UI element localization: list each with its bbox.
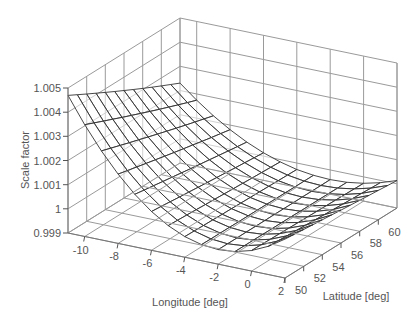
x-tick-label: 2 xyxy=(278,285,284,297)
back-wall-gridline xyxy=(180,18,397,63)
z-tick-label: 1.004 xyxy=(33,106,61,118)
x-tick-label: -8 xyxy=(109,250,119,262)
z-tick-label: 1 xyxy=(55,203,61,215)
y-axis-title: Latitude [deg] xyxy=(323,290,390,302)
z-tick-label: 0.999 xyxy=(33,227,61,239)
x-tick xyxy=(151,250,152,255)
x-tick xyxy=(84,237,85,242)
z-tick-label: 1.002 xyxy=(33,155,61,167)
x-tick-label: -4 xyxy=(176,264,186,276)
y-tick-label: 52 xyxy=(314,272,326,284)
x-tick-label: -2 xyxy=(209,271,219,283)
back-wall-gridline xyxy=(180,42,397,87)
x-tick xyxy=(217,264,218,269)
y-tick-label: 50 xyxy=(295,284,307,296)
x-tick-label: 0 xyxy=(245,278,251,290)
z-tick-label: 1.003 xyxy=(33,130,61,142)
y-tick-label: 56 xyxy=(351,249,363,261)
y-tick-label: 58 xyxy=(370,237,382,249)
z-axis-title: Scale factor xyxy=(19,131,31,189)
surface-plot: 0.99911.0011.0021.0031.0041.005-10-8-6-4… xyxy=(0,0,416,328)
x-tick xyxy=(184,257,185,262)
z-tick-label: 1.001 xyxy=(33,179,61,191)
y-tick-label: 54 xyxy=(332,261,344,273)
x-tick xyxy=(251,271,252,276)
back-wall-gridline xyxy=(180,66,397,111)
z-tick-label: 1.005 xyxy=(33,82,61,94)
surface-mesh xyxy=(68,83,397,252)
x-tick-label: -10 xyxy=(73,244,89,256)
x-tick xyxy=(117,243,118,248)
x-tick-label: -6 xyxy=(143,257,153,269)
x-axis-title: Longitude [deg] xyxy=(152,296,228,308)
y-tick-label: 60 xyxy=(388,226,400,238)
